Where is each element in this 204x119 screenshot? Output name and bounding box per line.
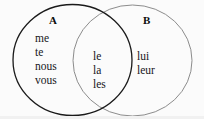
set-label-a: A — [49, 15, 57, 26]
bottom-edge-band — [0, 116, 204, 119]
intersection-items: le la les — [93, 49, 106, 91]
list-item: te — [35, 45, 57, 59]
list-item: leur — [137, 63, 155, 77]
list-item: nous — [35, 59, 57, 73]
list-item: lui — [137, 49, 155, 63]
set-label-b: B — [143, 15, 151, 26]
set-a-exclusive-items: me te nous vous — [35, 31, 57, 87]
list-item: le — [93, 49, 106, 63]
list-item: la — [93, 63, 106, 77]
list-item: vous — [35, 73, 57, 87]
venn-diagram: A B me te nous vous le la les lui leur — [0, 0, 204, 119]
circle-set-a — [13, 5, 132, 116]
list-item: me — [35, 31, 57, 45]
set-b-exclusive-items: lui leur — [137, 49, 155, 77]
list-item: les — [93, 77, 106, 91]
